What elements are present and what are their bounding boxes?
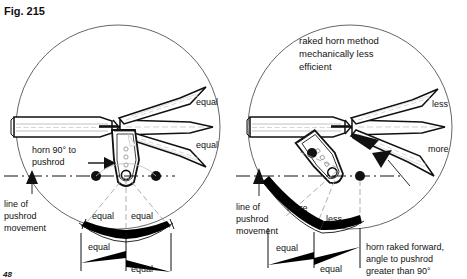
left-travel-down-label: equal xyxy=(196,140,218,150)
right-title-line1: raked horn method xyxy=(299,35,379,46)
right-arc-label-right: less xyxy=(326,214,343,224)
left-pushrod-label-line3: movement xyxy=(4,223,47,233)
left-pushrod-label-line1: line of xyxy=(4,199,29,209)
left-lower-wedge-label-lower: equal xyxy=(131,264,153,274)
left-arc-label-left: equal xyxy=(92,211,114,221)
right-title-line3: efficient xyxy=(299,61,332,72)
page-number: 48 xyxy=(2,270,12,279)
left-travel-up-label: equal xyxy=(196,97,218,107)
right-travel-up-label: less xyxy=(432,99,449,109)
right-wing-section xyxy=(247,117,345,137)
left-horn-label-line1: horn 90° to xyxy=(32,145,76,155)
right-pushrod-label-line1: line of xyxy=(236,202,261,212)
left-lower-wedge-label-upper: equal xyxy=(88,242,110,252)
right-pushrod-label-line2: pushrod xyxy=(236,214,269,224)
paper-background xyxy=(0,0,467,279)
right-title-line2: mechanically less xyxy=(299,48,374,59)
figure-number: Fig. 215 xyxy=(4,5,45,17)
right-travel-down-label: more xyxy=(428,144,449,154)
control-horn-comparison-diagram: Fig. 215 xyxy=(0,0,467,279)
left-wing-section xyxy=(11,117,112,137)
right-lower-wedge-label-lower: equal xyxy=(320,264,342,274)
right-arc-label-left: more xyxy=(287,203,308,213)
left-horn-hole-2 xyxy=(124,155,128,159)
figure-canvas: Fig. 215 xyxy=(0,0,467,279)
left-horn-label-line2: pushrod xyxy=(32,157,65,167)
right-lower-wedge-label-upper: equal xyxy=(276,243,298,253)
left-horn-hole-1 xyxy=(124,147,128,151)
left-pushrod-label-line2: pushrod xyxy=(4,211,37,221)
right-wing-outline xyxy=(250,117,345,137)
right-pushrod-label-line3: movement xyxy=(236,226,279,236)
right-horn-end-dot-left xyxy=(307,148,317,158)
left-wing-outline xyxy=(14,117,112,137)
right-caption-line1: horn raked forward, xyxy=(366,242,444,252)
right-horn-end-dot-right xyxy=(355,171,365,181)
right-caption-line3: greater than 90° xyxy=(366,266,431,276)
right-caption-line2: angle to pushrod xyxy=(366,254,433,264)
left-arc-label-right: equal xyxy=(131,211,153,221)
